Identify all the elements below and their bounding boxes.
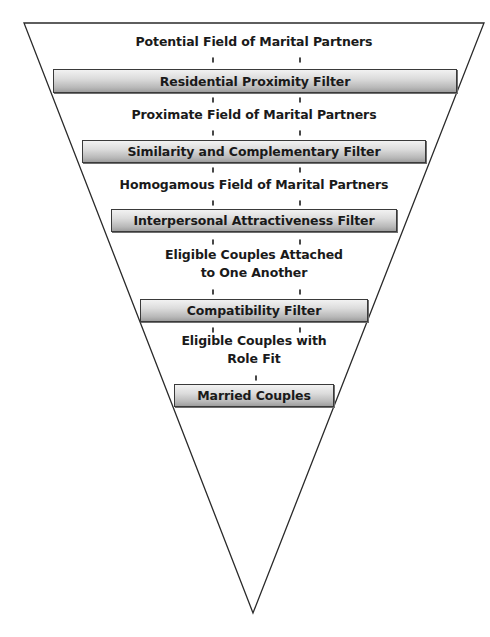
compatibility-filter-label: Compatibility Filter bbox=[187, 303, 321, 318]
similarity-complementary-filter-label: Similarity and Complementary Filter bbox=[127, 144, 380, 159]
role-fit-label-line2: Role Fit bbox=[0, 350, 490, 368]
married-couples-label: Married Couples bbox=[197, 388, 311, 403]
potential-field-label: Potential Field of Marital Partners bbox=[0, 33, 490, 51]
role-fit-label-line1: Eligible Couples with bbox=[0, 332, 490, 350]
married-couples-box: Married Couples bbox=[174, 384, 334, 407]
residential-proximity-filter-label: Residential Proximity Filter bbox=[160, 74, 350, 89]
interpersonal-attractiveness-filter: Interpersonal Attractiveness Filter bbox=[111, 209, 397, 232]
residential-proximity-filter: Residential Proximity Filter bbox=[53, 69, 457, 93]
similarity-complementary-filter: Similarity and Complementary Filter bbox=[82, 140, 426, 163]
homogamous-field-label: Homogamous Field of Marital Partners bbox=[0, 176, 490, 194]
compatibility-filter: Compatibility Filter bbox=[140, 299, 368, 322]
proximate-field-label: Proximate Field of Marital Partners bbox=[0, 106, 490, 124]
attached-couples-label-line1: Eligible Couples Attached bbox=[0, 246, 490, 264]
attached-couples-label-line2: to One Another bbox=[0, 264, 490, 282]
interpersonal-attractiveness-filter-label: Interpersonal Attractiveness Filter bbox=[133, 213, 374, 228]
